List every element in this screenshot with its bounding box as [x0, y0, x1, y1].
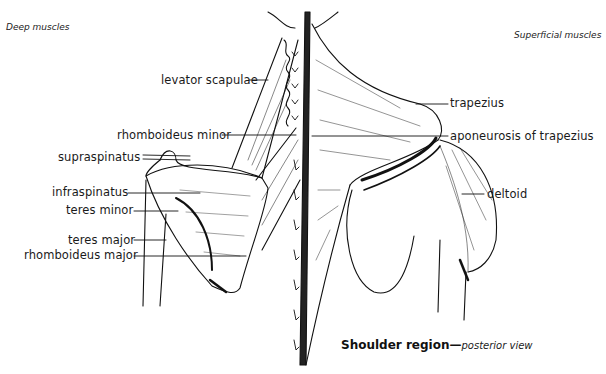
- caption-title: Shoulder region—: [341, 338, 461, 352]
- label-aponeurosis-of-trapezius: aponeurosis of trapezius: [450, 130, 594, 143]
- label-trapezius: trapezius: [450, 97, 504, 110]
- label-deltoid: deltoid: [487, 188, 527, 201]
- label-rhomboideus-major: rhomboideus major: [24, 249, 138, 262]
- deep-muscles-heading: Deep muscles: [6, 22, 69, 32]
- label-infraspinatus: infraspinatus: [52, 186, 128, 199]
- label-rhomboideus-minor: rhomboideus minor: [117, 129, 231, 142]
- label-levator-scapulae: levator scapulae: [161, 74, 258, 87]
- figure-caption: Shoulder region—posterior view: [341, 334, 533, 353]
- superficial-muscles-heading: Superficial muscles: [514, 30, 601, 40]
- label-teres-minor: teres minor: [66, 204, 133, 217]
- label-teres-major: teres major: [68, 234, 135, 247]
- label-supraspinatus: supraspinatus: [58, 151, 140, 164]
- caption-subtitle: posterior view: [461, 340, 532, 351]
- anatomy-figure: Deep muscles Superficial muscles levator…: [0, 0, 606, 374]
